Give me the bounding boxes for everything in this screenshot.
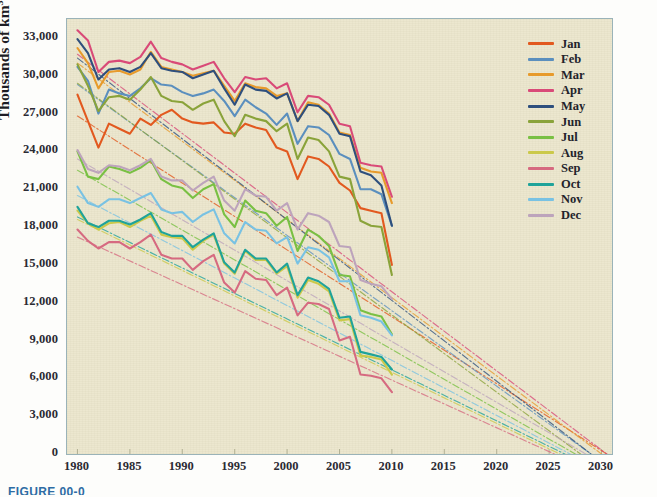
legend-label-nov: Nov bbox=[561, 193, 583, 206]
trendline-aug bbox=[77, 219, 559, 454]
legend-swatch-feb-icon bbox=[528, 58, 554, 61]
series-line-oct bbox=[77, 207, 391, 370]
x-tick-2030: 2030 bbox=[573, 459, 629, 474]
legend-label-may: May bbox=[561, 100, 585, 113]
y-tick-12000: 12,000 bbox=[0, 294, 58, 309]
x-tick-1990: 1990 bbox=[153, 459, 209, 474]
y-axis-label-text: Thousands of km bbox=[0, 5, 12, 120]
legend-item-dec[interactable]: Dec bbox=[528, 208, 618, 224]
y-tick-0: 0 bbox=[0, 445, 58, 460]
legend-label-mar: Mar bbox=[561, 69, 585, 82]
legend-item-aug[interactable]: Aug bbox=[528, 145, 618, 161]
x-tick-2020: 2020 bbox=[468, 459, 524, 474]
legend-item-may[interactable]: May bbox=[528, 98, 618, 114]
legend-label-feb: Feb bbox=[561, 53, 581, 66]
y-tick-30000: 30,000 bbox=[0, 67, 58, 82]
legend-item-mar[interactable]: Mar bbox=[528, 67, 618, 83]
x-tick-2025: 2025 bbox=[520, 459, 576, 474]
y-tick-33000: 33,000 bbox=[0, 29, 58, 44]
figure-caption: FIGURE 00-0 bbox=[8, 485, 85, 495]
legend-item-feb[interactable]: Feb bbox=[528, 52, 618, 68]
legend-label-jul: Jul bbox=[561, 131, 578, 144]
legend-label-jun: Jun bbox=[561, 116, 581, 129]
trendline-sep bbox=[77, 237, 554, 454]
x-tick-1980: 1980 bbox=[48, 459, 104, 474]
x-tick-2015: 2015 bbox=[415, 459, 471, 474]
legend-swatch-jul-icon bbox=[528, 136, 554, 139]
legend-swatch-oct-icon bbox=[528, 183, 554, 186]
legend-item-sep[interactable]: Sep bbox=[528, 161, 618, 177]
trendline-jul bbox=[77, 170, 575, 454]
legend-swatch-jun-icon bbox=[528, 120, 554, 123]
legend-label-dec: Dec bbox=[561, 209, 581, 222]
legend-label-apr: Apr bbox=[561, 84, 583, 97]
x-tick-1985: 1985 bbox=[101, 459, 157, 474]
y-tick-27000: 27,000 bbox=[0, 105, 58, 120]
y-tick-15000: 15,000 bbox=[0, 256, 58, 271]
y-tick-6000: 6,000 bbox=[0, 369, 58, 384]
y-tick-18000: 18,000 bbox=[0, 218, 58, 233]
legend-label-sep: Sep bbox=[561, 162, 580, 175]
legend-swatch-mar-icon bbox=[528, 73, 554, 76]
legend-item-jun[interactable]: Jun bbox=[528, 114, 618, 130]
trendline-may bbox=[77, 58, 591, 454]
y-tick-9000: 9,000 bbox=[0, 332, 58, 347]
trendline-dec bbox=[77, 159, 585, 454]
legend-swatch-may-icon bbox=[528, 105, 554, 108]
legend-label-aug: Aug bbox=[561, 147, 583, 160]
y-axis-label-superscript: 3 bbox=[0, 0, 5, 5]
y-tick-24000: 24,000 bbox=[0, 142, 58, 157]
y-tick-21000: 21,000 bbox=[0, 180, 58, 195]
legend-item-nov[interactable]: Nov bbox=[528, 192, 618, 208]
x-tick-2000: 2000 bbox=[258, 459, 314, 474]
x-tick-1995: 1995 bbox=[206, 459, 262, 474]
trendline-jun bbox=[77, 83, 580, 454]
legend-label-oct: Oct bbox=[561, 178, 580, 191]
legend-item-jan[interactable]: Jan bbox=[528, 36, 618, 52]
legend-item-oct[interactable]: Oct bbox=[528, 176, 618, 192]
legend-swatch-nov-icon bbox=[528, 198, 554, 201]
y-axis-label: Thousands of km3 bbox=[0, 0, 13, 120]
legend-swatch-dec-icon bbox=[528, 214, 554, 217]
legend: JanFebMarAprMayJunJulAugSepOctNovDec bbox=[528, 36, 618, 223]
x-tick-2005: 2005 bbox=[311, 459, 367, 474]
legend-swatch-aug-icon bbox=[528, 151, 554, 154]
legend-swatch-jan-icon bbox=[528, 42, 554, 45]
series-line-sep bbox=[77, 230, 391, 393]
legend-item-jul[interactable]: Jul bbox=[528, 130, 618, 146]
legend-item-apr[interactable]: Apr bbox=[528, 83, 618, 99]
legend-label-jan: Jan bbox=[561, 38, 580, 51]
x-tick-2010: 2010 bbox=[363, 459, 419, 474]
y-tick-3000: 3,000 bbox=[0, 407, 58, 422]
figure-root: Thousands of km3 03,0006,0009,00012,0001… bbox=[0, 0, 657, 497]
legend-swatch-apr-icon bbox=[528, 89, 554, 92]
legend-swatch-sep-icon bbox=[528, 167, 554, 170]
